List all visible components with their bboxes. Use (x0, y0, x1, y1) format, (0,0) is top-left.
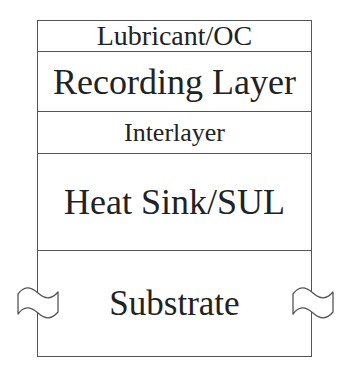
break-symbol-left-icon (16, 285, 60, 319)
layer-lubricant-oc: Lubricant/OC (38, 21, 311, 52)
layer-substrate: Substrate (38, 251, 311, 356)
layer-label: Interlayer (124, 120, 225, 146)
layer-label: Heat Sink/SUL (64, 184, 285, 220)
layer-label: Recording Layer (53, 64, 296, 100)
layer-stack-diagram: Lubricant/OC Recording Layer Interlayer … (37, 20, 312, 357)
layer-label: Lubricant/OC (97, 22, 253, 50)
layer-recording: Recording Layer (38, 52, 311, 112)
layer-heat-sink-sul: Heat Sink/SUL (38, 154, 311, 251)
layer-interlayer: Interlayer (38, 112, 311, 154)
break-symbol-right-icon (291, 285, 335, 319)
layer-label: Substrate (109, 286, 239, 321)
